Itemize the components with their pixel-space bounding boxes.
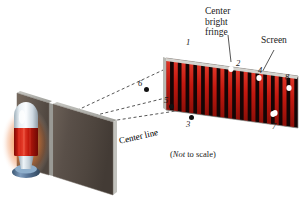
fringe-band-bright (220, 65, 224, 118)
fringe-band-bright (251, 70, 255, 123)
fringe-band-bright (182, 60, 186, 113)
diagram-svg (0, 0, 308, 201)
barrier-panel-right-side (113, 120, 117, 195)
label-not-to-scale: (Not to scale) (170, 150, 216, 160)
fringe-band-bright (205, 63, 209, 116)
fringe-band-bright (244, 69, 248, 122)
fringe-band-bright (267, 72, 271, 125)
fringe-band-bright (290, 75, 294, 128)
label-center-bright-fringe-line1: Center (205, 6, 230, 17)
leader-center-bright-fringe (228, 35, 231, 62)
bright-spot-1 (190, 48, 195, 54)
label-screen: Screen (261, 35, 287, 46)
fringe-band-bright (275, 73, 279, 126)
fringe-band-bright (213, 64, 217, 117)
label-center-bright-fringe-line2: bright (205, 17, 230, 28)
fringe-band-bright (174, 59, 178, 112)
label-fringe-1: 1 (186, 38, 190, 48)
bright-spot-lower (270, 111, 275, 117)
fringe-band-bright (228, 66, 232, 119)
fringe-band-bright (236, 68, 240, 121)
label-ray-dot-5: 5 (164, 96, 168, 106)
label-ray-dot-3: 3 (186, 120, 190, 130)
fringe-band-bright (189, 61, 193, 114)
ray-dot-6-marker (144, 87, 149, 92)
bright-spot-8 (286, 85, 291, 91)
bright-spot-2 (228, 66, 233, 72)
label-fringe-8: 8 (285, 73, 289, 83)
label-center-bright-fringe-line3: fringe (205, 27, 230, 38)
source-body (14, 124, 38, 156)
label-fringe-2: 2 (236, 59, 240, 69)
not-to-scale-rest: to scale) (185, 149, 216, 159)
label-center-bright-fringe: Center bright fringe (205, 6, 230, 38)
source-dome-highlight (19, 110, 25, 124)
figure-canvas: Center bright fringe Screen Center line … (0, 0, 308, 201)
bright-spot-4 (256, 75, 261, 81)
ray-dot-5-marker (169, 104, 174, 109)
label-fringe-4: 4 (258, 66, 262, 76)
fringe-band-bright (197, 62, 201, 115)
label-fringe-7: 7 (272, 122, 276, 132)
label-ray-dot-6: 6 (138, 79, 142, 89)
not-to-scale-italic: Not (173, 149, 185, 159)
